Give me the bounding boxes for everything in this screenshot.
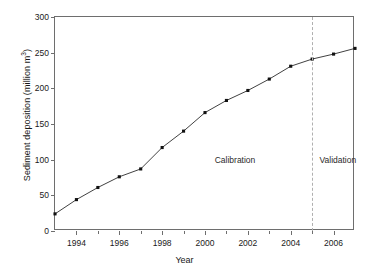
annotation-calibration: Calibration (215, 155, 256, 165)
y-tick-label: 200 (35, 83, 49, 93)
x-tick-label: 1996 (110, 238, 129, 248)
data-point (353, 47, 356, 50)
data-point (203, 111, 206, 114)
x-axis-title: Year (0, 255, 369, 265)
data-point (289, 65, 292, 68)
x-tick-mark-minor (226, 231, 227, 234)
x-tick-mark (162, 231, 163, 235)
plot-area: 050100150200250300 199419961998200020022… (55, 17, 355, 231)
series-markers (53, 47, 356, 216)
x-tick-label: 2004 (281, 238, 300, 248)
y-tick-label: 300 (35, 12, 49, 22)
y-axis-title-exponent: 3 (20, 52, 27, 56)
x-tick-mark-minor (312, 231, 313, 234)
y-axis-title-tail: ) (22, 49, 32, 52)
y-tick-label: 150 (35, 119, 49, 129)
y-tick-label: 0 (44, 226, 49, 236)
x-tick-mark (334, 231, 335, 235)
series-sediment-deposition (55, 17, 355, 231)
x-tick-label: 1998 (153, 238, 172, 248)
series-line (55, 48, 355, 213)
data-point (96, 186, 99, 189)
y-tick-label: 100 (35, 155, 49, 165)
y-tick-label: 250 (35, 48, 49, 58)
data-point (161, 146, 164, 149)
data-point (246, 89, 249, 92)
x-tick-mark-minor (98, 231, 99, 234)
y-tick-mark (51, 231, 55, 232)
annotation-validation: Validation (319, 155, 356, 165)
data-point (118, 175, 121, 178)
data-point (225, 99, 228, 102)
data-point (332, 53, 335, 56)
x-tick-mark (76, 231, 77, 235)
x-tick-mark (248, 231, 249, 235)
x-tick-label: 2002 (238, 238, 257, 248)
data-point (268, 78, 271, 81)
data-point (182, 130, 185, 133)
x-tick-mark (205, 231, 206, 235)
plot-frame: 050100150200250300 199419961998200020022… (54, 16, 354, 230)
data-point (75, 198, 78, 201)
x-tick-label: 1994 (67, 238, 86, 248)
x-tick-mark (291, 231, 292, 235)
calibration-validation-divider (312, 17, 313, 231)
chart-figure: Sediment deposition (million m3) 0501001… (0, 0, 369, 276)
x-tick-label: 2006 (324, 238, 343, 248)
data-point (139, 167, 142, 170)
x-tick-mark-minor (141, 231, 142, 234)
x-tick-mark (119, 231, 120, 235)
x-tick-label: 2000 (196, 238, 215, 248)
x-tick-mark-minor (269, 231, 270, 234)
y-tick-label: 50 (40, 190, 49, 200)
y-axis-title-text: Sediment deposition (million m (22, 56, 32, 182)
data-point (53, 212, 56, 215)
x-tick-mark-minor (184, 231, 185, 234)
y-axis-title: Sediment deposition (million m3) (22, 15, 32, 215)
